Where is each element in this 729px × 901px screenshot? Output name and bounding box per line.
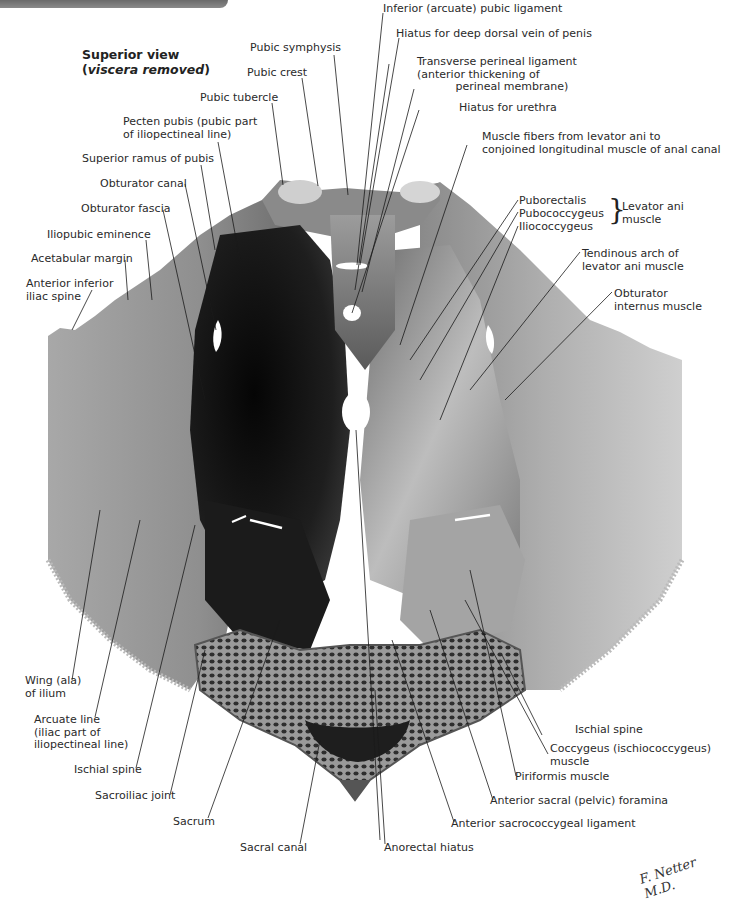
subtitle-italic: viscera removed (88, 62, 205, 77)
label-obturator-fascia: Obturator fascia (81, 203, 170, 216)
label-hiatus-urethra: Hiatus for urethra (459, 102, 557, 115)
label-sacroiliac-joint: Sacroiliac joint (95, 790, 175, 803)
label-superior-ramus-pubis: Superior ramus of pubis (82, 153, 214, 166)
title-main: Superior view (82, 47, 210, 62)
label-anterior-inferior-iliac-spine: Anterior inferior iliac spine (26, 278, 113, 303)
label-tendinous-arch: Tendinous arch of levator ani muscle (582, 248, 684, 273)
label-transverse-perineal-ligament: Transverse perineal ligament (anterior t… (417, 56, 577, 94)
hiatus-dorsal-vein-shape (336, 263, 368, 270)
label-wing-of-ilium: Wing (ala) of ilium (25, 675, 81, 700)
label-inferior-pubic-ligament: Inferior (arcuate) pubic ligament (383, 3, 562, 16)
label-iliococcygeus: Iliococcygeus (519, 221, 593, 234)
label-puborectalis: Puborectalis (519, 195, 586, 208)
label-sacrum: Sacrum (173, 816, 215, 829)
label-iliopubic-eminence: Iliopubic eminence (47, 229, 151, 242)
label-pubococcygeus: Pubococcygeus (519, 208, 604, 221)
label-levator-ani-group: Levator ani muscle (622, 201, 684, 226)
title-subtitle: (viscera removed) (82, 62, 210, 77)
label-sacral-canal: Sacral canal (240, 842, 307, 855)
label-anterior-sacral-foramina: Anterior sacral (pelvic) foramina (490, 795, 668, 808)
sacrum (195, 630, 525, 800)
label-pubic-tubercle: Pubic tubercle (200, 92, 278, 105)
label-obturator-internus: Obturator internus muscle (614, 288, 702, 313)
label-anorectal-hiatus: Anorectal hiatus (384, 842, 474, 855)
label-hiatus-dorsal-vein: Hiatus for deep dorsal vein of penis (396, 28, 592, 41)
label-arcuate-line: Arcuate line (iliac part of iliopectinea… (34, 714, 128, 752)
figure-title: Superior view (viscera removed) (82, 47, 210, 77)
label-ischial-spine-right: Ischial spine (575, 724, 643, 737)
label-piriformis: Piriformis muscle (515, 771, 609, 784)
label-acetabular-margin: Acetabular margin (31, 253, 133, 266)
label-pecten-pubis: Pecten pubis (pubic part of iliopectinea… (123, 116, 257, 141)
label-ischial-spine-left: Ischial spine (74, 764, 142, 777)
label-pubic-crest: Pubic crest (247, 67, 307, 80)
right-coccygeus (400, 505, 525, 650)
anorectal-hiatus-shape (342, 392, 370, 432)
label-muscle-fibers-levator: Muscle fibers from levator ani to conjoi… (482, 131, 721, 156)
label-coccygeus: Coccygeus (ischiococcygeus) muscle (550, 743, 711, 768)
label-obturator-canal: Obturator canal (100, 178, 187, 191)
label-anterior-sacrococcygeal-ligament: Anterior sacrococcygeal ligament (451, 818, 635, 831)
label-pubic-symphysis: Pubic symphysis (250, 42, 341, 55)
